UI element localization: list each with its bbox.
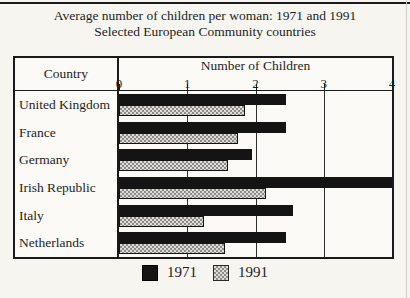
chart-table: Country Number of Children 01234 United … xyxy=(13,56,394,259)
legend-item-1991: 1991 xyxy=(213,264,268,281)
country-label: Irish Republic xyxy=(15,174,117,202)
bar-1971 xyxy=(119,122,286,133)
chart-row xyxy=(119,146,392,174)
legend-label-1971: 1971 xyxy=(167,264,197,281)
chart-title-block: Average number of children per woman: 19… xyxy=(0,8,410,40)
country-labels: United KingdomFranceGermanyIrish Republi… xyxy=(15,91,119,257)
axis-tick-mark xyxy=(256,84,257,90)
axis-tick-mark xyxy=(392,84,393,90)
bar-1991 xyxy=(119,216,204,227)
axis-tick-mark xyxy=(187,84,188,90)
bar-1971 xyxy=(119,205,293,216)
page-edge-rule xyxy=(406,0,407,298)
table-body: United KingdomFranceGermanyIrish Republi… xyxy=(15,91,392,257)
bar-1971 xyxy=(119,94,286,105)
value-axis-title: Number of Children xyxy=(119,58,392,74)
country-label: Italy xyxy=(15,202,117,230)
chart-title: Average number of children per woman: 19… xyxy=(0,8,410,24)
legend-item-1971: 1971 xyxy=(142,264,197,281)
legend-label-1991: 1991 xyxy=(238,264,268,281)
legend-swatch-1991 xyxy=(213,265,229,281)
bar-1971 xyxy=(119,177,392,188)
bar-1971 xyxy=(119,149,252,160)
chart-row xyxy=(119,174,392,202)
chart-subtitle: Selected European Community countries xyxy=(0,24,410,40)
country-label: United Kingdom xyxy=(15,91,117,119)
chart-row xyxy=(119,229,392,257)
bar-1991 xyxy=(119,188,266,199)
value-axis: Number of Children 01234 xyxy=(119,58,392,90)
legend-swatch-1971 xyxy=(142,265,158,281)
axis-tick-mark xyxy=(324,84,325,90)
table-header-row: Country Number of Children 01234 xyxy=(15,58,392,91)
legend: 1971 1991 xyxy=(0,264,410,281)
bar-1991 xyxy=(119,160,228,171)
country-column-header: Country xyxy=(15,58,119,90)
scanned-chart-page: Average number of children per woman: 19… xyxy=(0,0,410,298)
country-label: Germany xyxy=(15,146,117,174)
plot-area xyxy=(119,91,392,257)
top-rule xyxy=(0,2,410,4)
chart-row xyxy=(119,91,392,119)
bar-1991 xyxy=(119,133,238,144)
bar-1991 xyxy=(119,105,245,116)
bar-1971 xyxy=(119,232,286,243)
bar-1991 xyxy=(119,243,225,254)
country-label: France xyxy=(15,119,117,147)
chart-row xyxy=(119,119,392,147)
axis-tick-mark xyxy=(119,84,120,90)
country-label: Netherlands xyxy=(15,229,117,257)
chart-row xyxy=(119,202,392,230)
